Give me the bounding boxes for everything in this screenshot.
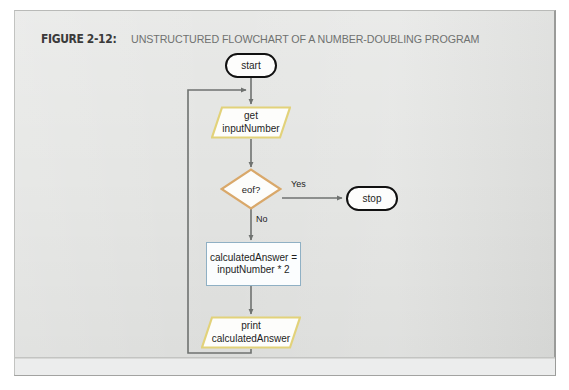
node-eof-decision[interactable]: eof? [220, 168, 282, 210]
figure-number: FIGURE 2-12: [41, 32, 116, 46]
node-stop[interactable]: stop [346, 186, 398, 211]
page-footer-area [15, 359, 555, 375]
figure-caption: FIGURE 2-12:UNSTRUCTURED FLOWCHART OF A … [41, 31, 505, 46]
node-stop-label: stop [363, 193, 382, 205]
node-print-output-line1: print [241, 320, 260, 331]
node-eof-label: eof? [242, 184, 261, 195]
node-calculate-line2: inputNumber * 2 [217, 264, 289, 275]
node-print-output-line2: calculatedAnswer [212, 333, 290, 344]
edge-label-yes: Yes [291, 179, 306, 189]
figure-page-panel: FIGURE 2-12:UNSTRUCTURED FLOWCHART OF A … [14, 10, 556, 376]
node-calculate-line1: calculatedAnswer = [210, 252, 297, 263]
node-start[interactable]: start [225, 53, 277, 78]
node-get-input-line1: get [244, 110, 258, 121]
node-start-label: start [241, 60, 260, 72]
node-get-input-line2: inputNumber [222, 123, 279, 134]
node-print-output-text: print calculatedAnswer [201, 316, 301, 349]
edge-label-no: No [256, 214, 268, 224]
node-calculate[interactable]: calculatedAnswer = inputNumber * 2 [206, 242, 301, 286]
node-eof-label-wrap: eof? [220, 168, 282, 210]
figure-title: UNSTRUCTURED FLOWCHART OF A NUMBER-DOUBL… [131, 32, 479, 46]
node-print-output[interactable]: print calculatedAnswer [201, 316, 301, 349]
node-get-input[interactable]: get inputNumber [211, 106, 291, 139]
node-calculate-text: calculatedAnswer = inputNumber * 2 [210, 252, 297, 276]
node-get-input-text: get inputNumber [211, 106, 291, 139]
